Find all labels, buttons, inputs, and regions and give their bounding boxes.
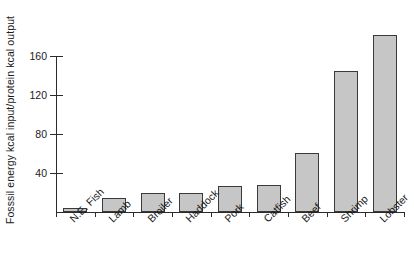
x-axis-labels: N.E. FishLambBroilerHaddockPorkCatfishBe… <box>56 213 404 274</box>
y-axis-title: Fosssil energy kcal input/protein kcal o… <box>0 0 20 240</box>
y-tick-label: 80 <box>35 128 47 140</box>
y-tick-label: 120 <box>29 89 47 101</box>
plot-area: 4080120160 <box>56 57 404 212</box>
x-tick-mark <box>404 212 405 217</box>
y-tick-label: 160 <box>29 50 47 62</box>
y-axis-title-text: Fosssil energy kcal input/protein kcal o… <box>4 16 16 224</box>
bar-chart: Fosssil energy kcal input/protein kcal o… <box>0 0 414 274</box>
bar <box>373 35 397 212</box>
bar <box>334 71 358 212</box>
y-tick-label: 40 <box>35 167 47 179</box>
bars-layer <box>56 57 404 213</box>
